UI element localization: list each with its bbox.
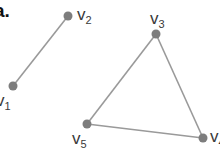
vertex-v4: [199, 134, 208, 143]
vertex-v2: [64, 12, 73, 21]
label-v2: v2: [77, 6, 92, 26]
label-v5: v5: [72, 130, 87, 150]
label-v3: v3: [150, 10, 165, 30]
edge-v3-v4: [156, 34, 203, 138]
vertex-v3: [152, 30, 161, 39]
edges: [13, 16, 203, 138]
vertex-v1: [9, 82, 18, 91]
label-v1: v1: [0, 92, 11, 112]
vertices: [9, 12, 208, 143]
vertex-v5: [83, 120, 92, 129]
graph-diagram: [0, 0, 220, 157]
label-v4: v4: [210, 128, 220, 148]
edge-v3-v5: [87, 34, 156, 124]
edge-v5-v4: [87, 124, 203, 138]
edge-v1-v2: [13, 16, 68, 86]
